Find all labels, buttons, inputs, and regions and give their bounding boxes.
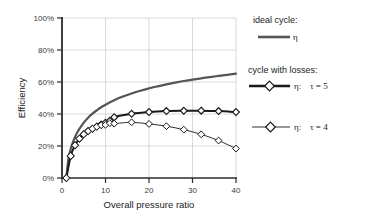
ytick-label-80: 80%: [38, 46, 54, 55]
xtick-label-20: 20: [145, 186, 154, 195]
x-axis-title: Overall pressure ratio: [104, 199, 195, 210]
xtick-label-0: 0: [60, 186, 65, 195]
ytick-label-60: 60%: [38, 78, 54, 87]
legend-group-ideal-title: ideal cycle:: [253, 15, 298, 25]
ytick-label-20: 20%: [38, 142, 54, 151]
legend-label-tau5-param: τ = 5: [310, 81, 328, 91]
ytick-label-40: 40%: [38, 110, 54, 119]
xtick-label-30: 30: [188, 186, 197, 195]
legend-label-tau5-eta: η:: [294, 81, 301, 91]
legend-label-tau4-param: τ = 4: [310, 122, 328, 132]
ytick-label-0: 0%: [42, 174, 54, 183]
legend-group-losses-title: cycle with losses:: [248, 65, 318, 75]
y-axis-title: Efficiency: [16, 78, 27, 119]
legend-label-ideal-eta: η: [293, 32, 298, 42]
xtick-label-10: 10: [101, 186, 110, 195]
ytick-label-100: 100%: [34, 14, 54, 23]
chart-figure: 100% 80% 60% 40% 20% 0% 0 10 20 30 40 Ov…: [0, 0, 365, 218]
efficiency-vs-pressure-ratio-chart: 100% 80% 60% 40% 20% 0% 0 10 20 30 40 Ov…: [0, 0, 365, 218]
legend-label-tau4-eta: η:: [294, 122, 301, 132]
xtick-label-40: 40: [232, 186, 241, 195]
